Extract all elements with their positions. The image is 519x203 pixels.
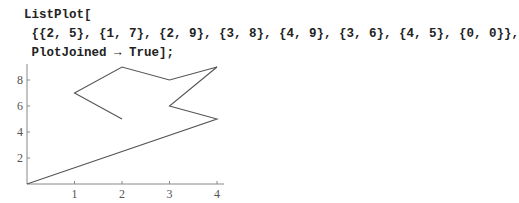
y-tick-label: 8 <box>17 73 23 87</box>
x-tick-label: 1 <box>72 187 78 201</box>
x-tick-label: 4 <box>214 187 220 201</box>
y-tick-label: 6 <box>17 99 23 113</box>
data-line <box>27 67 217 184</box>
input-cell[interactable]: ListPlot[ {{2, 5}, {1, 7}, {2, 9}, {3, 8… <box>24 6 519 63</box>
axes <box>27 64 224 184</box>
list-plot: 1234 2468 <box>0 60 240 203</box>
x-tick-label: 2 <box>119 187 125 201</box>
y-tick-label: 4 <box>17 125 23 139</box>
code-line-1: ListPlot[ <box>24 6 519 25</box>
code-line-2: {{2, 5}, {1, 7}, {2, 9}, {3, 8}, {4, 9},… <box>24 25 519 44</box>
x-tick-label: 3 <box>167 187 173 201</box>
y-ticks: 2468 <box>17 73 30 165</box>
y-tick-label: 2 <box>17 151 23 165</box>
